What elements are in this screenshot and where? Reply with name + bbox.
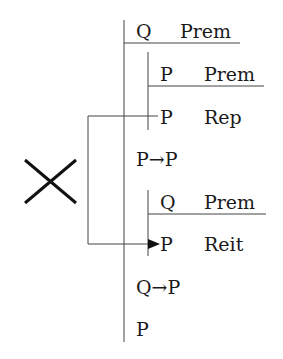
- line-4-formula: P→P: [136, 148, 178, 170]
- invalid-cross-icon: [25, 160, 76, 203]
- line-6-justification: Reit: [204, 233, 244, 255]
- line-8-formula: P: [136, 318, 149, 340]
- line-7-formula: Q→P: [136, 276, 180, 298]
- line-6-formula: P: [160, 233, 173, 255]
- line-2-justification: Prem: [204, 63, 255, 85]
- line-3-formula: P: [160, 106, 173, 128]
- line-1-formula: Q: [136, 20, 152, 42]
- line-3-justification: Rep: [204, 106, 242, 128]
- line-5-justification: Prem: [204, 191, 255, 213]
- line-2-formula: P: [160, 63, 173, 85]
- fitch-proof-diagram: Q Prem P Prem P Rep P→P Q Prem P Reit Q→…: [0, 0, 283, 359]
- line-1-justification: Prem: [180, 20, 231, 42]
- line-5-formula: Q: [160, 191, 176, 213]
